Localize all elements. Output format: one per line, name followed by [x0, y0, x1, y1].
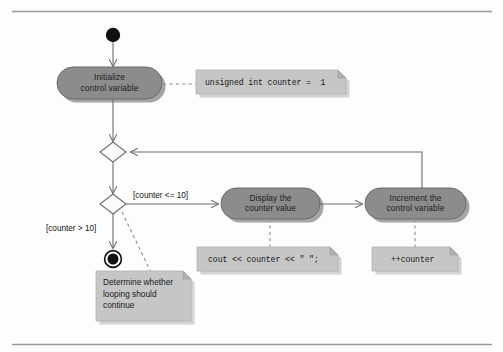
guard-counter-gt-10: [counter > 10] [46, 224, 96, 234]
activity-initialize-label: Initialize control variable [57, 72, 162, 93]
activity-increment-label: Increment the control variable [365, 193, 466, 214]
diagram-canvas [0, 0, 503, 352]
note-display-fold [330, 247, 338, 255]
merge-diamond [100, 142, 126, 162]
decision-diamond [100, 194, 126, 214]
note-init-fold [338, 70, 346, 78]
flow-increment-to-merge-loopback [131, 152, 422, 188]
note-display-text: cout << counter << " "; [208, 254, 319, 265]
activity-display-label: Display the counter value [221, 193, 320, 214]
initial-node [106, 28, 120, 42]
note-decision-text: Determine whether looping should continu… [103, 277, 187, 312]
uml-activity-diagram-figure: Initialize control variable Display the … [0, 0, 503, 352]
note-increment-fold [450, 247, 458, 255]
note-increment-text: ++counter [391, 254, 434, 265]
final-node-core [108, 254, 119, 265]
guard-counter-lte-10: [counter <= 10] [133, 191, 188, 201]
note-init-text: unsigned int counter = 1 [205, 77, 325, 88]
